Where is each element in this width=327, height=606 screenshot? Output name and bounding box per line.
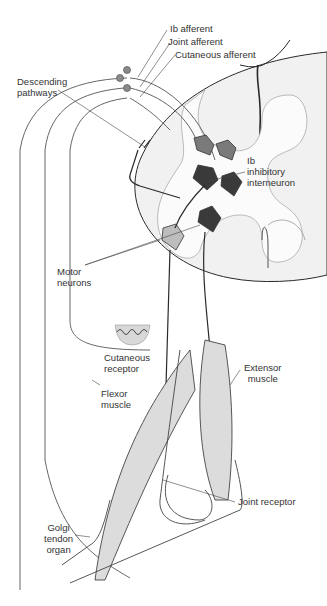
ganglion-cells	[117, 67, 131, 92]
label-motor-neurons: Motor neurons	[57, 266, 91, 288]
extensor-muscle-shape	[200, 340, 232, 500]
label-joint-receptor: Joint receptor	[238, 496, 296, 507]
label-ib-inhibitory-interneuron: Ib inhibitory interneuron	[247, 155, 295, 188]
label-joint-afferent: Joint afferent	[168, 36, 223, 47]
label-golgi-tendon-organ: Golgi tendon organ	[44, 522, 73, 555]
limb	[62, 340, 242, 583]
label-ib-afferent: Ib afferent	[170, 23, 213, 34]
label-extensor-muscle: Extensor muscle	[244, 362, 282, 384]
label-cutaneous-receptor: Cutaneous receptor	[104, 352, 150, 374]
flexor-muscle-shape	[95, 350, 195, 580]
cutaneous-receptor-shape	[115, 325, 150, 345]
spinal-cord	[135, 40, 327, 282]
label-flexor-muscle: Flexor muscle	[101, 388, 131, 410]
label-descending-pathways: Descending pathways	[17, 76, 67, 98]
label-cutaneous-afferent: Cutaneous afferent	[175, 49, 256, 60]
